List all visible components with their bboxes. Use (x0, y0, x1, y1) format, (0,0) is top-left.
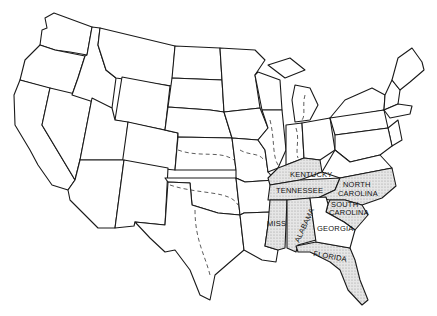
state-north-dakota (172, 46, 222, 80)
us-map: KENTUCKY TENNESSEE NORTH CAROLINA SOUTH … (0, 0, 437, 316)
state-kansas (175, 137, 236, 170)
state-michigan (292, 85, 318, 122)
label-north-carolina-2: CAROLINA (338, 189, 378, 198)
label-tennessee: TENNESSEE (276, 186, 323, 195)
western-states (14, 13, 178, 228)
state-michigan-up (268, 58, 305, 78)
state-new-mexico (115, 160, 168, 228)
label-georgia: GEORGIA (317, 224, 353, 233)
label-south-carolina-2: CAROLINA (329, 208, 369, 217)
state-maine (392, 48, 424, 90)
state-ohio (302, 118, 335, 160)
map-svg: KENTUCKY TENNESSEE NORTH CAROLINA SOUTH … (0, 0, 437, 316)
label-kentucky: KENTUCKY (290, 170, 332, 179)
northeast-states (322, 48, 424, 178)
state-south-dakota (168, 78, 224, 112)
label-north-carolina-1: NORTH (343, 180, 371, 189)
label-mississippi: MISS (267, 219, 286, 228)
